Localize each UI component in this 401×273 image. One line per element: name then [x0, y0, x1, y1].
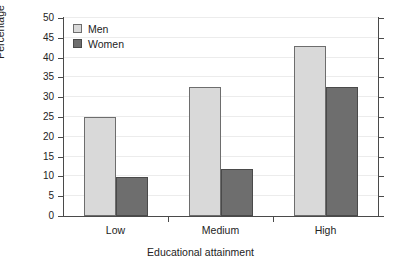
- y-axis-tick-label: 30: [14, 92, 54, 102]
- x-axis-tick-label: Low: [76, 224, 156, 236]
- bar-women-high: [326, 87, 358, 216]
- y-axis-tick-label: 0: [14, 211, 54, 221]
- legend-item-men: Men: [73, 22, 124, 35]
- x-axis-tick-label: Medium: [181, 224, 261, 236]
- y-axis-tick: [58, 18, 63, 19]
- right-axis-tick: [379, 77, 384, 78]
- legend-swatch-women: [73, 39, 82, 48]
- right-axis-tick: [379, 97, 384, 98]
- y-axis-tick-label: 25: [14, 112, 54, 122]
- y-axis-tick: [58, 157, 63, 158]
- right-axis-tick: [379, 58, 384, 59]
- right-axis-tick: [379, 216, 384, 217]
- legend-swatch-men: [73, 24, 82, 33]
- bar-women-low: [116, 177, 148, 216]
- y-axis-tick: [58, 77, 63, 78]
- y-axis-tick-label: 20: [14, 132, 54, 142]
- y-axis-tick: [58, 58, 63, 59]
- right-axis-tick: [379, 117, 384, 118]
- right-axis-tick: [379, 18, 384, 19]
- right-axis-tick: [379, 157, 384, 158]
- y-axis-tick: [58, 176, 63, 177]
- gridline: [63, 57, 378, 58]
- y-axis-tick-label: 5: [14, 191, 54, 201]
- y-axis-tick-label: 15: [14, 152, 54, 162]
- legend: MenWomen: [73, 22, 124, 52]
- y-axis-line: [63, 17, 64, 217]
- y-axis-tick-label: 50: [14, 13, 54, 23]
- y-axis-tick-label: 40: [14, 53, 54, 63]
- y-axis-tick: [58, 38, 63, 39]
- bar-women-medium: [221, 169, 253, 216]
- bar-men-medium: [189, 87, 221, 216]
- y-axis-tick-label: 45: [14, 33, 54, 43]
- right-axis-tick: [379, 38, 384, 39]
- x-axis-tick-label: High: [286, 224, 366, 236]
- y-axis-tick: [58, 97, 63, 98]
- bar-men-low: [84, 117, 116, 216]
- right-axis-tick: [379, 176, 384, 177]
- gridline: [63, 76, 378, 77]
- y-axis-title: Percentage: [0, 0, 6, 92]
- x-axis-title: Educational attainment: [0, 246, 401, 258]
- x-axis-tick: [273, 217, 274, 222]
- y-axis-tick: [58, 137, 63, 138]
- y-axis-tick: [58, 196, 63, 197]
- gridline: [63, 17, 378, 18]
- bar-chart: 05101520253035404550 LowMediumHigh Perce…: [0, 0, 401, 273]
- y-axis-tick-label: 35: [14, 72, 54, 82]
- right-axis-tick: [379, 137, 384, 138]
- x-axis-line: [63, 216, 379, 217]
- legend-label: Women: [88, 39, 124, 49]
- legend-label: Men: [88, 24, 108, 34]
- x-axis-tick: [168, 217, 169, 222]
- y-axis-tick: [58, 216, 63, 217]
- y-axis-tick-label: 10: [14, 171, 54, 181]
- legend-item-women: Women: [73, 37, 124, 50]
- y-axis-tick: [58, 117, 63, 118]
- right-axis-tick: [379, 196, 384, 197]
- bar-men-high: [294, 46, 326, 216]
